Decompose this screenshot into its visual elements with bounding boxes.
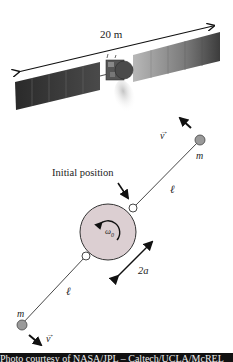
figure-graphics <box>0 0 233 362</box>
upper-tether <box>135 140 200 206</box>
lower-tether <box>22 258 84 324</box>
upper-attachment-point <box>129 204 137 212</box>
lower-velocity-vector-accent: → <box>46 331 54 339</box>
initial-position-pointer <box>118 183 128 198</box>
lower-mass-label: m <box>17 309 24 319</box>
engine-plume <box>111 78 140 118</box>
spacecraft-body <box>106 54 133 80</box>
upper-mass-label: m <box>196 151 203 161</box>
span-label: 20 m <box>100 29 122 40</box>
right-solar-panel <box>133 32 220 82</box>
upper-mass <box>195 135 205 145</box>
upper-velocity-vector-accent: → <box>160 128 168 136</box>
upper-tether-length-label: ℓ <box>170 184 175 195</box>
lower-mass <box>17 320 27 330</box>
initial-position-label: Initial position <box>52 168 114 179</box>
figure: 20 m Initial position m m v → v → ℓ ℓ 2a… <box>0 0 233 362</box>
lower-tether-length-label: ℓ <box>66 286 71 297</box>
omega-label: ω0 <box>105 227 114 238</box>
lower-attachment-point <box>82 252 90 260</box>
omega-subscript: 0 <box>111 232 114 238</box>
lower-velocity-arrow <box>29 335 41 345</box>
upper-velocity-arrow <box>180 118 191 128</box>
photo-credit-caption: Photo courtesy of NASA/JPL – Caltech/UCL… <box>0 353 233 362</box>
diameter-label: 2a <box>138 266 149 277</box>
